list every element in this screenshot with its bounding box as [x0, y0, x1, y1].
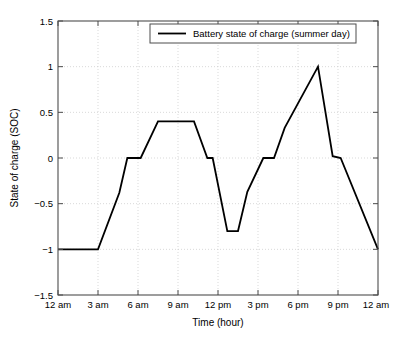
chart-legend[interactable]: Battery state of charge (summer day)	[150, 24, 356, 43]
chart-canvas: 1.5 1 0.5 0 −0.5 −1 −1.5 12 am 3 am 6 am…	[0, 0, 406, 352]
x-tick-label: 12 pm	[205, 299, 231, 310]
chart-figure: 1.5 1 0.5 0 −0.5 −1 −1.5 12 am 3 am 6 am…	[0, 0, 406, 352]
x-tick-label: 9 am	[167, 299, 188, 310]
y-tick-label: 1	[48, 61, 53, 72]
x-tick-label: 6 pm	[287, 299, 308, 310]
x-tick-label: 12 am	[45, 299, 71, 310]
x-axis-title: Time (hour)	[192, 317, 243, 328]
x-tick-label: 6 am	[127, 299, 148, 310]
y-tick-label: 0	[48, 153, 53, 164]
y-tick-label: −0.5	[34, 198, 53, 209]
y-tick-labels: 1.5 1 0.5 0 −0.5 −1 −1.5	[34, 16, 53, 301]
x-tick-label: 9 pm	[327, 299, 348, 310]
x-tick-labels: 12 am 3 am 6 am 9 am 12 pm 3 pm 6 pm 9 p…	[45, 299, 389, 310]
y-tick-label: 0.5	[40, 107, 53, 118]
x-tick-label: 3 am	[87, 299, 108, 310]
x-tick-label: 12 am	[363, 299, 389, 310]
legend-entry-label: Battery state of charge (summer day)	[193, 28, 350, 39]
y-tick-label: −1	[42, 244, 53, 255]
y-tick-label: 1.5	[40, 16, 53, 27]
y-axis-title: State of charge (SOC)	[9, 109, 20, 208]
x-tick-label: 3 pm	[247, 299, 268, 310]
